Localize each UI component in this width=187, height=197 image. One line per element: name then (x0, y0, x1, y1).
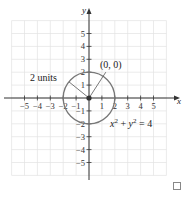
center-annotation: (0, 0) (100, 59, 122, 71)
y-tick-label: −4 (76, 145, 86, 155)
x-tick-label: 1 (100, 101, 104, 111)
coordinate-plane: −5−4−3−2−11234554321−1−2−3−4−5 y x 2 uni… (0, 0, 187, 197)
y-tick-label: 5 (81, 29, 85, 39)
radius-annotation: 2 units (30, 72, 57, 83)
x-tick-label: 4 (138, 101, 143, 111)
x-axis-label: x (176, 96, 181, 106)
y-tick-label: −3 (76, 132, 85, 142)
equation-plus: + (118, 118, 129, 129)
y-tick-label: 1 (81, 80, 85, 90)
y-tick-label: −1 (76, 106, 85, 116)
x-tick-label: −5 (20, 101, 29, 111)
x-tick-label: −4 (33, 101, 43, 111)
x-tick-label: 5 (151, 101, 155, 111)
circle-equation: x2 + y2 = 4 (109, 117, 152, 129)
y-axis-label: y (81, 5, 86, 15)
y-axis-arrow-icon (87, 8, 92, 14)
x-tick-label: 3 (126, 101, 130, 111)
radius-pointer-line (69, 82, 89, 98)
center-pointer-line (90, 72, 105, 96)
x-tick-label: −3 (46, 101, 55, 111)
equation-rhs: = 4 (137, 118, 153, 129)
checkbox[interactable] (173, 182, 181, 190)
y-tick-label: 3 (81, 54, 85, 64)
center-point (86, 95, 91, 100)
y-tick-label: −5 (76, 158, 85, 168)
